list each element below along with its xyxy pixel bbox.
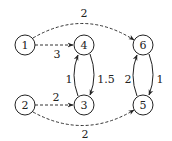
edge-1-4: 3 — [35, 45, 73, 61]
edge-label-4-3: 1.5 — [97, 73, 115, 86]
node-2: 2 — [15, 95, 35, 115]
node-label-4: 4 — [81, 39, 88, 52]
node-1: 1 — [15, 35, 35, 55]
edge-2-3: 2 — [35, 91, 73, 105]
node-label-2: 2 — [22, 99, 29, 112]
edge-4-3: 1.5 — [90, 54, 115, 95]
node-4: 4 — [74, 35, 94, 55]
node-6: 6 — [133, 35, 153, 55]
edge-3-4: 1 — [66, 55, 79, 96]
node-3: 3 — [74, 95, 94, 115]
edge-label-2-3: 2 — [53, 91, 60, 104]
edge-6-5: 1 — [149, 54, 164, 95]
edge-label-5-6: 2 — [125, 73, 132, 86]
node-label-1: 1 — [22, 39, 29, 52]
edge-label-1-6: 2 — [81, 7, 88, 20]
edge-label-1-4: 3 — [54, 48, 61, 61]
edge-label-2-5: 2 — [82, 128, 89, 141]
edge-label-3-4: 1 — [66, 73, 73, 86]
graph-diagram: 2 3 2 2 1 1.5 2 1 1 4 6 2 — [0, 0, 172, 141]
node-label-3: 3 — [81, 99, 88, 112]
node-label-6: 6 — [140, 39, 147, 52]
edge-5-6: 2 — [125, 55, 138, 96]
node-5: 5 — [133, 95, 153, 115]
edge-label-6-5: 1 — [157, 73, 164, 86]
node-label-5: 5 — [140, 99, 147, 112]
